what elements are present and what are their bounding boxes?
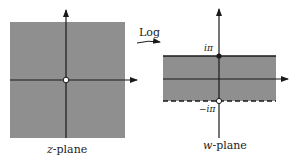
z-origin-hollow-circle [63, 77, 69, 83]
z-plane-label: z-plane [47, 144, 87, 155]
minus-i-pi-hollow-circle [216, 98, 221, 103]
i-pi-label: iπ [204, 44, 213, 53]
w-plane-label-var: w [203, 139, 212, 152]
mapping-label: Log [139, 27, 160, 38]
w-plane-label-suffix: -plane [212, 139, 246, 152]
z-plane [10, 10, 137, 138]
diagram-canvas [0, 0, 296, 163]
minus-i-pi-label: −iπ [199, 105, 215, 114]
i-pi-filled-dot [216, 53, 221, 58]
w-plane [163, 9, 288, 138]
w-plane-label: w-plane [203, 140, 247, 151]
z-plane-label-suffix: -plane [53, 143, 87, 156]
mapping-arrow-icon [137, 41, 160, 43]
